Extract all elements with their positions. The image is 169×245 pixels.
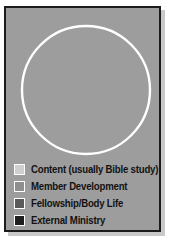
legend-swatch-content: [14, 164, 25, 175]
legend-item-content[interactable]: Content (usually Bible study): [14, 161, 157, 178]
legend-label-fellowship-body-life: Fellowship/Body Life: [31, 198, 123, 209]
pie-chart-area: [6, 8, 159, 158]
legend-label-content: Content (usually Bible study): [31, 164, 158, 175]
legend-item-fellowship-body-life[interactable]: Fellowship/Body Life: [14, 195, 157, 212]
legend-swatch-fellowship-body-life: [14, 198, 25, 209]
pie-chart-svg: [6, 8, 159, 158]
legend: Content (usually Bible study) Member Dev…: [14, 161, 157, 229]
legend-label-external-ministry: External Ministry: [31, 215, 105, 226]
legend-label-member-development: Member Development: [31, 181, 127, 192]
legend-swatch-member-development: [14, 181, 25, 192]
pie-chart-figure: Content (usually Bible study) Member Dev…: [0, 0, 169, 245]
legend-item-member-development[interactable]: Member Development: [14, 178, 157, 195]
legend-swatch-external-ministry: [14, 215, 25, 226]
figure-frame: Content (usually Bible study) Member Dev…: [4, 6, 161, 232]
legend-item-external-ministry[interactable]: External Ministry: [14, 212, 157, 229]
pie-outline: [22, 26, 150, 154]
